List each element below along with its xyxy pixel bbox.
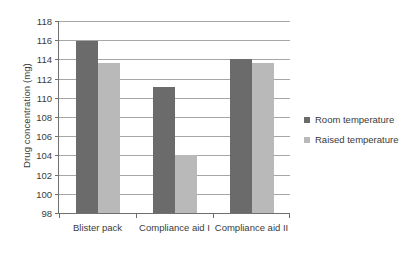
y-tick-label: 100: [36, 188, 52, 199]
bar-chart: Drug concentration (mg) 1181161141121101…: [0, 0, 414, 259]
y-tick-label: 118: [37, 16, 52, 27]
x-tick-mark: [136, 213, 137, 218]
bar: [153, 87, 175, 213]
plot-area: 11811611411211010810610410210098 Blister…: [58, 21, 290, 214]
x-tick-label: Compliance aid I: [139, 222, 210, 233]
y-tick-label: 98: [41, 208, 52, 219]
bar: [252, 63, 274, 213]
y-tick-label: 108: [36, 112, 52, 123]
legend: Room temperatureRaised temperature: [304, 114, 410, 154]
x-tick-mark: [213, 213, 214, 218]
y-tick-label: 116: [37, 35, 52, 46]
legend-swatch-icon: [304, 137, 310, 143]
y-tick-label: 104: [36, 150, 52, 161]
bar-group: [76, 21, 120, 213]
legend-label: Raised temperature: [315, 134, 398, 145]
x-tick-label: Compliance aid II: [215, 222, 288, 233]
bar-group: [153, 21, 197, 213]
y-tick-label: 102: [36, 169, 52, 180]
legend-swatch-icon: [304, 117, 310, 123]
bar: [98, 63, 120, 213]
x-tick-label: Blister pack: [73, 222, 122, 233]
legend-label: Room temperature: [315, 114, 394, 125]
y-tick-label: 110: [37, 92, 52, 103]
x-tick-mark: [289, 213, 290, 218]
bar: [230, 59, 252, 213]
bar: [76, 41, 98, 213]
y-axis-title: Drug concentration (mg): [21, 41, 32, 191]
y-tick-label: 106: [36, 131, 52, 142]
legend-item[interactable]: Room temperature: [304, 114, 410, 125]
y-tick-label: 112: [37, 73, 52, 84]
bar-group: [230, 21, 274, 213]
y-tick-label: 114: [37, 54, 52, 65]
x-tick-mark: [59, 213, 60, 218]
legend-item[interactable]: Raised temperature: [304, 134, 410, 145]
bars-layer: [59, 21, 290, 213]
bar: [175, 155, 197, 213]
